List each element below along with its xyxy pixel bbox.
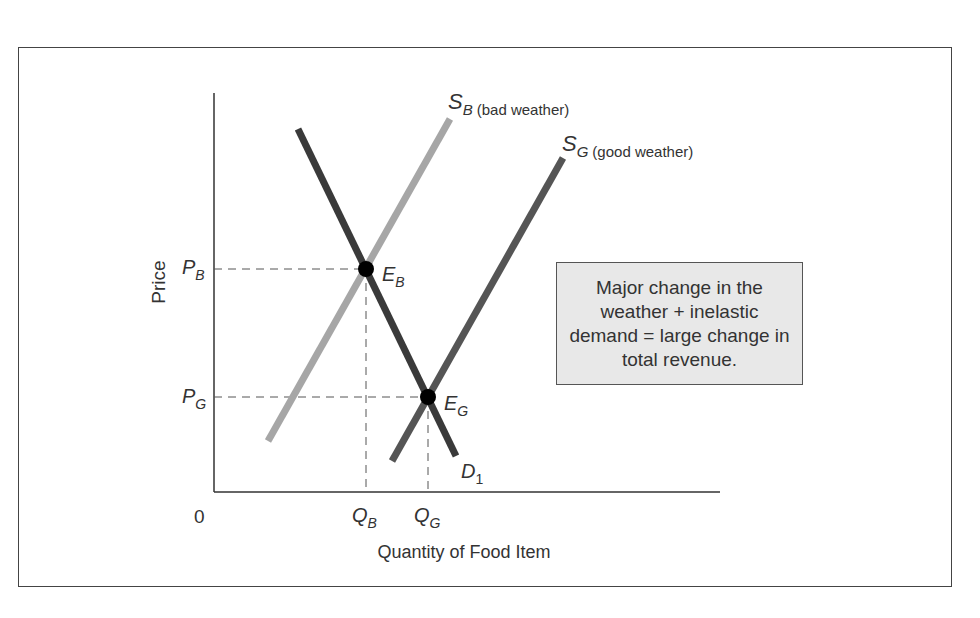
sb-label: SB(bad weather) [448, 89, 569, 118]
equilibrium-b-point [358, 261, 374, 277]
pg-tick-label: PG [182, 385, 206, 412]
d1-label: D1 [461, 460, 483, 487]
supply-good-weather-line [392, 158, 563, 461]
pb-tick-label: PB [182, 256, 205, 283]
eg-label: EG [444, 392, 468, 419]
x-axis-label: Quantity of Food Item [377, 542, 550, 562]
annotation-callout: Major change in the weather + inelastic … [556, 262, 803, 385]
origin-label: 0 [194, 506, 205, 527]
eb-label: EB [382, 263, 405, 290]
demand-line [298, 129, 456, 456]
sg-label: SG(good weather) [562, 131, 693, 160]
annotation-text: Major change in the weather + inelastic … [565, 276, 794, 372]
qg-tick-label: QG [414, 504, 441, 531]
y-axis-label: Price [148, 260, 169, 303]
qb-tick-label: QB [352, 504, 377, 531]
equilibrium-g-point [420, 389, 436, 405]
supply-demand-diagram: SB(bad weather) SG(good weather) D1 EB E… [0, 0, 980, 618]
